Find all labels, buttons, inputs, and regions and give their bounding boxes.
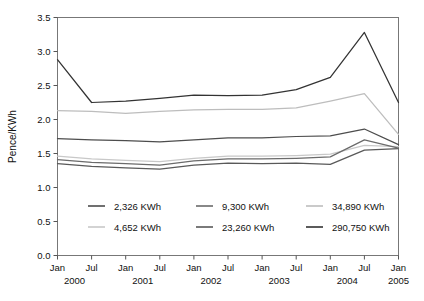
x-axis-tick-label: Jul [358,262,370,273]
y-axis-tick-label: 1.0 [37,182,50,193]
x-axis-year-label: 2000 [64,275,85,286]
legend-label-290-750-kwh: 290,750 KWh [332,222,390,233]
y-axis-tick-label: 3.0 [37,46,50,57]
y-axis-tick-label: 2.5 [37,80,50,91]
legend-label-34-890-kwh: 34,890 KWh [332,201,384,212]
x-axis-tick-label: Jan [118,262,133,273]
series-line-2-326-kwh [58,129,399,145]
legend-label-2-326-kwh: 2,326 KWh [114,201,161,212]
legend-label-23-260-kwh: 23,260 KWh [222,222,274,233]
x-axis-tick-label: Jan [254,262,269,273]
plot-frame [58,18,399,256]
x-axis-tick-label: Jul [154,262,166,273]
series-line-9-300-kwh [58,140,399,165]
x-axis-year-label: 2003 [269,275,290,286]
series-line-290-750-kwh [58,32,399,102]
series-line-34-890-kwh [58,94,399,135]
x-axis-tick-label: Jan [50,262,65,273]
y-axis-title: Pence/KWh [7,110,18,163]
x-axis-tick-label: Jul [222,262,234,273]
y-axis-tick-label: 3.5 [37,12,50,23]
chart-canvas: 0.00.51.01.52.02.53.03.5Pence/KWhJanJulJ… [0,0,424,301]
x-axis-tick-label: Jan [186,262,201,273]
y-axis-tick-label: 2.0 [37,114,50,125]
x-axis-year-label: 2004 [337,275,358,286]
y-axis-tick-label: 1.5 [37,148,50,159]
legend-label-4-652-kwh: 4,652 KWh [114,222,161,233]
x-axis-tick-label: Jul [290,262,302,273]
x-axis-tick-label: Jan [391,262,406,273]
x-axis-year-label: 2002 [200,275,221,286]
y-axis-tick-label: 0.5 [37,216,50,227]
legend-label-9-300-kwh: 9,300 KWh [222,201,269,212]
x-axis-year-label: 2005 [388,275,409,286]
x-axis-year-label: 2001 [132,275,153,286]
line-chart: 0.00.51.01.52.02.53.03.5Pence/KWhJanJulJ… [0,0,424,301]
y-axis-tick-label: 0.0 [37,250,50,261]
x-axis-tick-label: Jan [323,262,338,273]
x-axis-tick-label: Jul [86,262,98,273]
